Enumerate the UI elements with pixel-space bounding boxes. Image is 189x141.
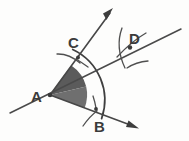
geometry-figure: A C B D [0,0,189,141]
geometry-canvas: A C B D [0,0,189,141]
label-point-C: C [68,34,79,51]
label-point-A: A [31,88,42,105]
label-point-D: D [129,30,140,47]
label-point-B: B [94,118,105,135]
arc-at-C-right [76,59,88,67]
ray-AB-lower [50,95,133,126]
arrowhead-upper-ray [103,8,113,20]
arc-at-B-upper [93,96,96,108]
arc-at-D-tail-lower [127,61,148,68]
dot-point-C [76,56,80,60]
arc-at-D-from-B [119,28,125,68]
dot-vertex-A [48,93,53,98]
dot-point-B [94,107,98,111]
arrowhead-lower-ray [126,121,139,129]
